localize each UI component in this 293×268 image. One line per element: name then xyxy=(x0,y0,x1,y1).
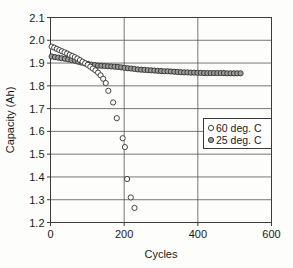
data-point xyxy=(125,176,130,181)
x-axis-tick-labels: 0200400600 xyxy=(47,228,280,240)
capacity-vs-cycles-scatter-chart: 1.21.31.41.51.61.71.81.92.02.1 020040060… xyxy=(0,0,293,268)
vertical-gridlines xyxy=(124,18,198,223)
y-axis-title: Capacity (Ah) xyxy=(4,87,16,154)
y-tick-label: 1.5 xyxy=(29,148,44,160)
data-point xyxy=(120,136,125,141)
y-tick-label: 1.7 xyxy=(29,103,44,115)
data-point xyxy=(111,100,116,105)
x-tick-label: 600 xyxy=(262,228,280,240)
x-tick-label: 400 xyxy=(189,228,207,240)
legend-label-25c: 25 deg. C xyxy=(216,134,262,146)
legend-label-60c: 60 deg. C xyxy=(216,122,262,134)
data-point xyxy=(103,81,108,86)
x-tick-label: 200 xyxy=(115,228,133,240)
data-point xyxy=(238,71,243,76)
x-axis-title: Cycles xyxy=(144,248,178,260)
y-tick-label: 2.1 xyxy=(29,12,44,24)
data-point xyxy=(132,205,137,210)
y-tick-label: 1.6 xyxy=(29,125,44,137)
y-tick-label: 2.0 xyxy=(29,34,44,46)
x-tick-label: 0 xyxy=(47,228,53,240)
y-tick-label: 1.2 xyxy=(29,217,44,229)
y-axis-tick-labels: 1.21.31.41.51.61.71.81.92.02.1 xyxy=(29,12,44,229)
data-point xyxy=(106,88,111,93)
data-point xyxy=(128,195,133,200)
y-tick-label: 1.8 xyxy=(29,80,44,92)
data-point xyxy=(114,116,119,121)
legend-marker-open-circle-icon xyxy=(208,125,213,130)
data-point xyxy=(122,145,127,150)
y-tick-label: 1.9 xyxy=(29,57,44,69)
chart-legend: 60 deg. C 25 deg. C xyxy=(204,119,272,149)
y-tick-label: 1.3 xyxy=(29,194,44,206)
y-tick-label: 1.4 xyxy=(29,171,44,183)
x-axis-tick-marks xyxy=(51,223,272,227)
legend-marker-filled-circle-icon xyxy=(208,137,213,142)
chart-figure: 1.21.31.41.51.61.71.81.92.02.1 020040060… xyxy=(0,0,293,268)
